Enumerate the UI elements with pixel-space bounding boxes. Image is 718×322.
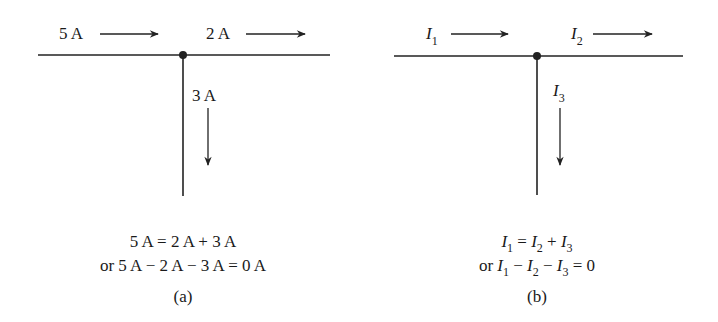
current-label-3a: 3 A bbox=[192, 86, 217, 105]
equation-b-line2: or I1 − I2 − I3 = 0 bbox=[479, 256, 595, 279]
junction-node-a bbox=[179, 51, 187, 59]
junction-node-b bbox=[533, 52, 541, 60]
panel-b: I1 I2 I3 I1 = I2 + I3 or I1 − I2 − I3 = … bbox=[394, 24, 683, 306]
panel-a: 5 A 2 A 3 A 5 A = 2 A + 3 A or 5 A − 2 A… bbox=[38, 24, 330, 306]
caption-b: (b) bbox=[527, 287, 547, 306]
kcl-diagram: 5 A 2 A 3 A 5 A = 2 A + 3 A or 5 A − 2 A… bbox=[0, 0, 718, 322]
equation-a-line2: or 5 A − 2 A − 3 A = 0 A bbox=[100, 256, 267, 275]
caption-a: (a) bbox=[174, 287, 193, 306]
equation-a-line1: 5 A = 2 A + 3 A bbox=[130, 232, 237, 251]
equation-b-line1: I1 = I2 + I3 bbox=[500, 232, 572, 255]
current-label-i2: I2 bbox=[570, 24, 583, 48]
current-label-i1: I1 bbox=[425, 24, 438, 48]
current-label-5a: 5 A bbox=[59, 24, 84, 43]
current-label-i3: I3 bbox=[552, 81, 565, 105]
current-label-2a: 2 A bbox=[206, 24, 231, 43]
